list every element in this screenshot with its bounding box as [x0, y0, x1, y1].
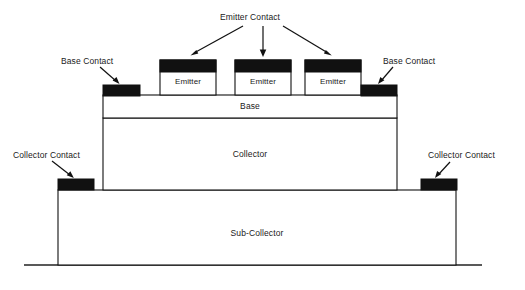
hbt-cross-section-diagram: Emitter Contact Base Contact Base Contac… — [0, 0, 525, 290]
collector-contact-left-leader — [52, 161, 70, 175]
emitter-contact-pad-3 — [305, 60, 361, 72]
base-contact-right-callout-label: Base Contact — [383, 57, 435, 66]
base-contact-pad-right — [361, 85, 397, 96]
sub-collector-layer-label: Sub-Collector — [58, 229, 456, 238]
emitter-label-3: Emitter — [305, 78, 361, 86]
emitter-label-1: Emitter — [160, 78, 216, 86]
diagram-canvas — [0, 0, 525, 290]
base-contact-left-callout-label: Base Contact — [61, 57, 113, 66]
emitter-contact-arrowhead-middle — [260, 50, 267, 57]
emitter-contact-leader-right — [283, 26, 328, 53]
emitter-contact-pad-2 — [235, 60, 291, 72]
emitter-label-2: Emitter — [235, 78, 291, 86]
collector-contact-right-callout-label: Collector Contact — [428, 151, 495, 160]
base-contact-right-leader — [381, 67, 393, 81]
collector-contact-left-callout-label: Collector Contact — [13, 151, 80, 160]
emitter-contact-leader-left — [194, 26, 243, 53]
collector-contact-pad-right — [421, 179, 457, 190]
emitter-contact-pad-1 — [160, 60, 216, 72]
base-layer-label: Base — [103, 102, 397, 111]
base-contact-left-leader — [100, 67, 116, 81]
collector-contact-pad-left — [58, 179, 94, 190]
emitter-contact-callout-label: Emitter Contact — [220, 13, 280, 22]
base-contact-pad-left — [103, 85, 140, 96]
collector-layer-label: Collector — [103, 150, 397, 159]
collector-contact-left-arrowhead — [67, 171, 74, 178]
